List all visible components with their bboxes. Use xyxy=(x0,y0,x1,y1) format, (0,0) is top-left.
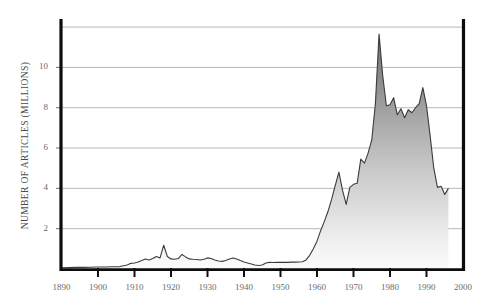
y-tick-label: 4 xyxy=(28,182,48,192)
y-tick-label: 8 xyxy=(28,102,48,112)
y-tick-label: 10 xyxy=(28,61,48,71)
x-tick-label: 1900 xyxy=(78,282,118,292)
x-tick-label: 1910 xyxy=(115,282,155,292)
x-tick-label: 2000 xyxy=(443,282,483,292)
y-tick-label: 6 xyxy=(28,142,48,152)
plot-area xyxy=(0,0,485,308)
x-tick-label: 1960 xyxy=(297,282,337,292)
chart-title xyxy=(0,0,485,3)
x-tick-label: 1980 xyxy=(370,282,410,292)
x-tick-label: 1890 xyxy=(42,282,82,292)
x-tick-label: 1920 xyxy=(151,282,191,292)
series-area-fill xyxy=(62,34,449,269)
x-tick-label: 1950 xyxy=(261,282,301,292)
chart-figure: NUMBER OF ARTICLES (MILLIONS) 246810 189… xyxy=(0,0,485,308)
x-tick-label: 1990 xyxy=(407,282,447,292)
x-tick-label: 1970 xyxy=(334,282,374,292)
x-tick-label: 1930 xyxy=(188,282,228,292)
x-tick-label: 1940 xyxy=(224,282,264,292)
y-tick-label: 2 xyxy=(28,223,48,233)
